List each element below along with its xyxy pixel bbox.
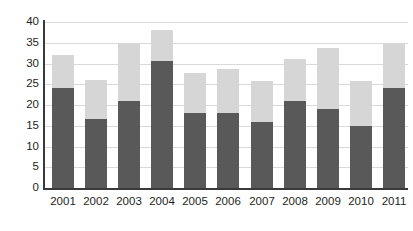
bar-segment-lower — [217, 113, 239, 188]
y-axis-tick-label: 15 — [1, 120, 39, 132]
bar-segment-upper — [317, 48, 339, 109]
x-axis-line — [43, 188, 408, 190]
bar-2006 — [217, 69, 239, 188]
bar-segment-upper — [383, 43, 405, 89]
bar-2005 — [184, 73, 206, 188]
x-axis-tick-label: 2005 — [179, 196, 211, 208]
bar-2004 — [151, 30, 173, 188]
bar-2007 — [251, 81, 273, 188]
bar-segment-upper — [52, 55, 74, 88]
bar-2001 — [52, 55, 74, 188]
y-axis-tick-label: 10 — [1, 141, 39, 153]
x-axis-tick-label: 2003 — [113, 196, 145, 208]
bar-segment-upper — [151, 30, 173, 61]
bar-segment-lower — [251, 122, 273, 188]
y-axis-tick-label: 0 — [1, 182, 39, 194]
gridline — [44, 22, 408, 23]
x-axis-tick-label: 2008 — [279, 196, 311, 208]
x-axis-tick-label: 2006 — [212, 196, 244, 208]
bar-segment-lower — [151, 61, 173, 188]
y-axis-tick-label: 35 — [1, 37, 39, 49]
bar-segment-upper — [284, 59, 306, 101]
bar-segment-lower — [317, 109, 339, 188]
bar-segment-lower — [52, 88, 74, 188]
y-axis-tick-labels: 0510152025303540 — [0, 22, 39, 188]
bar-segment-upper — [118, 43, 140, 101]
bar-segment-lower — [184, 113, 206, 188]
bar-2008 — [284, 59, 306, 188]
plot-area — [44, 22, 408, 188]
x-axis-tick-label: 2004 — [146, 196, 178, 208]
x-axis-tick-label: 2002 — [80, 196, 112, 208]
y-axis-tick-label: 30 — [1, 58, 39, 70]
y-axis-tick-label: 25 — [1, 79, 39, 91]
bar-2010 — [350, 81, 372, 188]
y-axis-tick-label: 40 — [1, 16, 39, 28]
bar-segment-upper — [184, 73, 206, 113]
x-axis-tick-label: 2001 — [47, 196, 79, 208]
y-axis-tick-label: 20 — [1, 99, 39, 111]
gridline — [44, 64, 408, 65]
bar-segment-lower — [383, 88, 405, 188]
gridline — [44, 43, 408, 44]
bar-segment-lower — [284, 101, 306, 188]
x-axis-tick-label: 2011 — [378, 196, 410, 208]
bar-segment-upper — [251, 81, 273, 122]
x-axis-tick-label: 2007 — [246, 196, 278, 208]
bar-2009 — [317, 48, 339, 188]
bar-segment-upper — [217, 69, 239, 113]
bar-segment-upper — [350, 81, 372, 126]
x-axis-tick-label: 2009 — [312, 196, 344, 208]
bar-2002 — [85, 80, 107, 188]
x-axis-tick-labels: 2001200220032004200520062007200820092010… — [44, 196, 408, 218]
bar-2011 — [383, 43, 405, 188]
y-axis-tick-label: 5 — [1, 162, 39, 174]
bar-chart: 0510152025303540 20012002200320042005200… — [0, 0, 413, 231]
bar-segment-upper — [85, 80, 107, 119]
y-axis-line — [43, 20, 45, 190]
bar-2003 — [118, 43, 140, 188]
bar-segment-lower — [118, 101, 140, 188]
bar-segment-lower — [85, 119, 107, 188]
bar-segment-lower — [350, 126, 372, 188]
x-axis-tick-label: 2010 — [345, 196, 377, 208]
